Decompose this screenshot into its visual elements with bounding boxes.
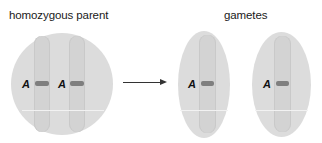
parent-cell-line bbox=[22, 110, 104, 111]
parent-allele-label-2: A bbox=[58, 79, 66, 90]
parent-allele-band-1 bbox=[35, 81, 49, 86]
parent-allele-label-1: A bbox=[22, 79, 30, 90]
parent-allele-band-2 bbox=[70, 81, 84, 86]
gamete-1-allele-label: A bbox=[188, 79, 196, 90]
gamete-1-allele-band bbox=[201, 81, 214, 86]
gamete-2-line bbox=[255, 110, 308, 111]
gamete-1-line bbox=[180, 110, 228, 111]
gamete-2-allele-label: A bbox=[263, 79, 271, 90]
gamete-2-allele-band bbox=[276, 81, 289, 86]
gametes-label: gametes bbox=[224, 9, 267, 21]
homozygous-parent-label: homozygous parent bbox=[9, 9, 108, 21]
